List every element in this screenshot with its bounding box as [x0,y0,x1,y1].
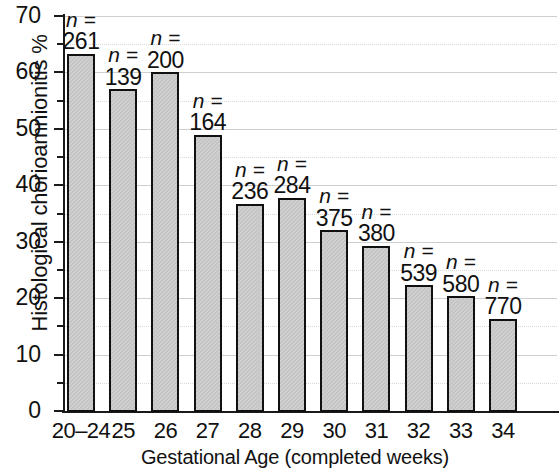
y-tick-major: 10 [54,354,64,356]
gridline-minor [65,101,557,102]
gridline-major [65,242,557,243]
y-tick-label: 20 [15,286,41,309]
gridline-major [65,16,557,17]
y-tick-label: 10 [15,342,41,365]
y-tick-minor [57,269,64,271]
y-tick-major: 40 [54,184,64,186]
plot-area: 010203040506070 n =261n =139n =200n =164… [63,16,557,411]
y-tick-label: 0 [28,399,41,422]
bar-n-value: 200 [133,49,197,72]
bar-n-value: 164 [176,111,240,134]
y-tick-label: 30 [15,229,41,252]
bar[interactable] [405,285,433,412]
y-tick-label: 70 [15,4,41,27]
bar[interactable] [236,204,264,412]
bar-n-label: n =200 [133,27,197,72]
bar[interactable] [489,319,517,412]
bar-n-label: n =380 [344,201,408,246]
y-tick-minor [57,382,64,384]
bar[interactable] [109,89,137,412]
gridline-minor [65,383,557,384]
gridline-minor [65,326,557,327]
bar-n-prefix: n = [446,250,476,273]
y-tick-minor [57,213,64,215]
gridline-major [65,129,557,130]
y-tick-major: 50 [54,128,64,130]
y-tick-label: 50 [15,116,41,139]
x-tick-label: 34 [463,418,543,444]
chart-figure: Histological chorioamnionitis % 01020304… [0,0,560,474]
bar-n-value: 770 [471,295,535,318]
bar-n-label: n =770 [471,274,535,319]
y-tick-major: 0 [54,410,64,412]
y-tick-label: 40 [15,173,41,196]
y-tick-major: 20 [54,297,64,299]
y-tick-major: 60 [54,71,64,73]
y-tick-major: 30 [54,241,64,243]
gridline-major [65,355,557,356]
y-tick-minor [57,156,64,158]
bar[interactable] [67,54,95,412]
y-tick-minor [57,100,64,102]
bar-n-prefix: n = [151,26,181,49]
x-axis-title: Gestational Age (completed weeks) [40,446,550,469]
y-tick-label: 60 [15,60,41,83]
bar-n-label: n =164 [176,90,240,135]
y-tick-minor [57,325,64,327]
bar[interactable] [320,230,348,412]
